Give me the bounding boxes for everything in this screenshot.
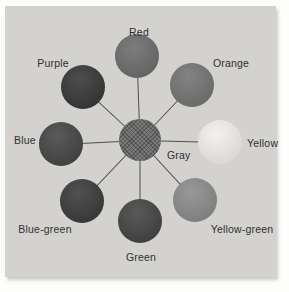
- node-orange-label: Orange: [213, 57, 249, 69]
- node-red-circle: [115, 34, 159, 78]
- node-blue-circle: [39, 122, 83, 166]
- node-red-label: Red: [129, 26, 149, 38]
- node-yellow-circle: [198, 120, 242, 164]
- center-gray-circle: [119, 119, 161, 161]
- node-green-circle: [118, 199, 162, 243]
- node-yellow-green-circle: [173, 178, 217, 222]
- node-purple-label: Purple: [37, 57, 69, 69]
- color-wheel: RedOrangeYellowYellow-greenGreenBlue-gre…: [5, 6, 276, 277]
- node-blue-label: Blue: [14, 134, 36, 146]
- node-blue-green-circle: [60, 179, 104, 223]
- node-blue-green-label: Blue-green: [18, 223, 71, 235]
- center-gray-label: Gray: [167, 149, 191, 161]
- node-orange-circle: [170, 63, 214, 107]
- node-green-label: Green: [126, 251, 156, 263]
- color-wheel-panel: RedOrangeYellowYellow-greenGreenBlue-gre…: [5, 6, 276, 277]
- node-yellow-green-label: Yellow-green: [211, 223, 274, 235]
- node-yellow-label: Yellow: [247, 137, 278, 149]
- node-purple-circle: [61, 65, 105, 109]
